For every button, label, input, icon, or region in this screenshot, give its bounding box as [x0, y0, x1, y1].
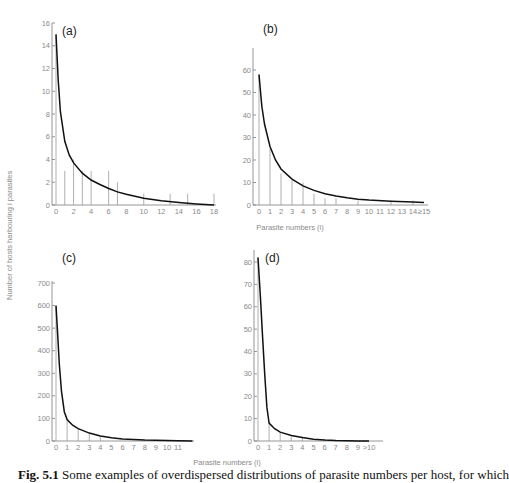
caption-label: Fig. 5.1: [18, 467, 59, 482]
fitted-curve: [56, 306, 192, 441]
x-tick-label: 0: [54, 443, 58, 452]
y-tick-label: 6: [46, 132, 50, 141]
x-tick-label: 8: [124, 207, 128, 216]
panel-d: 010203040506070800123456789>10(d): [244, 250, 383, 452]
y-tick-label: 400: [37, 346, 50, 355]
x-tick-label: 3: [87, 443, 91, 452]
x-axis-title-bottom: Parasite numbers (i): [193, 458, 261, 467]
y-tick-label: 0: [46, 437, 50, 446]
x-tick-label: 0: [54, 207, 58, 216]
panel-label: (d): [265, 251, 280, 265]
y-tick-label: 0: [247, 201, 251, 210]
x-tick-label: 8: [143, 443, 147, 452]
x-tick-label: 9: [356, 443, 360, 452]
y-tick-label: 40: [243, 111, 251, 120]
x-tick-label: 18: [210, 207, 218, 216]
y-tick-label: 2: [46, 178, 50, 187]
x-tick-label: 16: [192, 207, 200, 216]
y-tick-label: 20: [243, 156, 251, 165]
y-tick-label: 80: [244, 258, 252, 267]
x-tick-label: 6: [323, 207, 327, 216]
x-tick-label: 9: [356, 207, 360, 216]
x-tick-label: 12: [157, 207, 165, 216]
y-tick-label: 30: [243, 133, 251, 142]
y-tick-label: 20: [244, 392, 252, 401]
x-tick-label: 11: [174, 443, 182, 452]
panel-a: 0246810121416024681012141618(a): [42, 19, 219, 216]
x-tick-label: 8: [345, 207, 349, 216]
y-tick-label: 200: [37, 391, 50, 400]
y-tick-label: 100: [37, 414, 50, 423]
y-tick-label: 16: [42, 19, 50, 28]
y-tick-label: 30: [244, 369, 252, 378]
x-tick-label: 1: [268, 207, 272, 216]
y-tick-label: 10: [244, 414, 252, 423]
x-tick-label: 10: [140, 207, 148, 216]
panel-b: 010203040506001234567891011121314≥15(b): [243, 22, 431, 216]
y-tick-label: 12: [42, 64, 50, 73]
y-tick-label: 50: [244, 325, 252, 334]
fitted-curve: [259, 75, 424, 203]
y-tick-label: 10: [42, 87, 50, 96]
x-tick-label: 3: [290, 207, 294, 216]
x-tick-label: 10: [365, 207, 373, 216]
panel-label: (a): [62, 24, 77, 38]
x-tick-label: 9: [154, 443, 158, 452]
y-tick-label: 70: [244, 280, 252, 289]
panel-label: (c): [62, 251, 76, 265]
x-tick-label: 1: [65, 443, 69, 452]
x-tick-label: 6: [120, 443, 124, 452]
y-tick-label: 300: [37, 369, 50, 378]
x-tick-label: 2: [71, 207, 75, 216]
x-tick-label: 5: [109, 443, 113, 452]
x-tick-label: 4: [300, 443, 304, 452]
x-tick-label: 13: [398, 207, 406, 216]
x-tick-label: 0: [257, 207, 261, 216]
caption-text: Some examples of overdispersed distribut…: [62, 467, 509, 482]
y-tick-label: 8: [46, 110, 50, 119]
x-tick-label: 4: [301, 207, 305, 216]
x-tick-label: 10: [163, 443, 171, 452]
y-tick-label: 0: [248, 437, 252, 446]
x-tick-label: 7: [334, 443, 338, 452]
x-tick-label: >10: [363, 443, 376, 452]
panel-c: 010020030040050060070001234567891011(c): [37, 251, 194, 452]
y-tick-label: 60: [243, 66, 251, 75]
x-axis-title-top: Parasite numbers (i): [256, 223, 324, 232]
x-tick-label: 2: [279, 207, 283, 216]
fitted-curve: [258, 258, 369, 442]
x-tick-label: 8: [345, 443, 349, 452]
x-tick-label: ≥15: [418, 207, 430, 216]
y-tick-label: 50: [243, 88, 251, 97]
x-tick-label: 4: [89, 207, 93, 216]
x-tick-label: 12: [387, 207, 395, 216]
fitted-curve: [56, 34, 214, 205]
x-tick-label: 7: [334, 207, 338, 216]
x-tick-label: 2: [278, 443, 282, 452]
y-tick-label: 700: [37, 279, 50, 288]
x-tick-label: 5: [311, 443, 315, 452]
x-tick-label: 7: [132, 443, 136, 452]
y-tick-label: 60: [244, 302, 252, 311]
x-tick-label: 1: [267, 443, 271, 452]
x-tick-label: 4: [98, 443, 102, 452]
x-tick-label: 0: [256, 443, 260, 452]
x-tick-label: 5: [312, 207, 316, 216]
x-tick-label: 6: [323, 443, 327, 452]
x-tick-label: 14: [409, 207, 417, 216]
y-tick-label: 4: [46, 155, 50, 164]
x-tick-label: 3: [289, 443, 293, 452]
y-tick-label: 500: [37, 324, 50, 333]
y-tick-label: 10: [243, 178, 251, 187]
y-tick-label: 600: [37, 301, 50, 310]
x-tick-label: 11: [376, 207, 384, 216]
y-axis-title: Number of hosts harbouring i parasites: [5, 171, 14, 300]
figure-caption: Fig. 5.1 Some examples of overdispersed …: [18, 467, 509, 483]
x-tick-label: 2: [76, 443, 80, 452]
y-tick-label: 0: [46, 201, 50, 210]
x-tick-label: 14: [175, 207, 183, 216]
x-tick-label: 6: [107, 207, 111, 216]
y-tick-label: 14: [42, 41, 50, 50]
y-tick-label: 40: [244, 347, 252, 356]
